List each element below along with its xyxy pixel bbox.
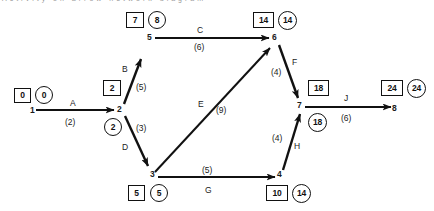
node-8-earliest-box: 24 <box>381 80 403 96</box>
node-8-id-label: 8 <box>392 104 397 113</box>
node-5-earliest-box: 7 <box>126 12 144 28</box>
edge-d-label: D <box>122 143 128 152</box>
edge-j-label: J <box>344 94 348 103</box>
edge-e-label: E <box>198 100 204 109</box>
node-6-id-label: 6 <box>272 33 277 42</box>
edge-h-duration: (4) <box>272 134 282 143</box>
node-4-latest-circle: 14 <box>292 184 311 203</box>
node-7-latest-circle: 18 <box>308 113 327 132</box>
edge-h-label: H <box>294 142 300 151</box>
node-2-earliest-box: 2 <box>103 80 121 96</box>
node-4-id-label: 4 <box>277 170 282 179</box>
node-3-id-label: 3 <box>150 170 155 179</box>
node-3-earliest-box: 5 <box>128 185 145 201</box>
edge-c-duration: (6) <box>194 43 204 52</box>
edge-a-label: A <box>70 99 76 108</box>
node-4-earliest-box: 10 <box>266 185 288 201</box>
node-5-latest-circle: 8 <box>148 11 166 29</box>
edge-b-label: B <box>122 65 128 74</box>
node-1-id-label: 1 <box>30 106 35 115</box>
node-1-earliest-box: 0 <box>14 88 31 103</box>
edge-f-line <box>279 45 298 98</box>
node-7-id-label: 7 <box>297 101 302 110</box>
node-5-id-label: 5 <box>147 33 152 42</box>
node-2-latest-circle: 2 <box>104 118 122 136</box>
edge-b-duration: (5) <box>136 83 146 92</box>
edge-g-label: G <box>205 186 212 195</box>
node-3-latest-circle: 5 <box>150 184 168 202</box>
network-diagram-canvas: Activity on arrow network diagram 0 0 <box>0 0 434 211</box>
node-7-earliest-box: 18 <box>308 80 329 96</box>
edge-a-duration: (2) <box>65 118 75 127</box>
edge-g-duration: (5) <box>202 166 212 175</box>
node-2-id-label: 2 <box>117 105 122 114</box>
node-8-latest-circle: 24 <box>407 79 426 98</box>
node-6-latest-circle: 14 <box>278 11 297 30</box>
edge-d-duration: (3) <box>136 124 146 133</box>
node-1-latest-circle: 0 <box>35 86 53 104</box>
node-6-earliest-box: 14 <box>253 12 274 28</box>
edge-j-duration: (6) <box>341 114 351 123</box>
edge-e-line <box>155 48 270 172</box>
edge-c-label: C <box>197 26 203 35</box>
edge-e-duration: (9) <box>216 106 226 115</box>
edge-f-label: F <box>292 58 297 67</box>
edge-f-duration: (4) <box>271 68 281 77</box>
